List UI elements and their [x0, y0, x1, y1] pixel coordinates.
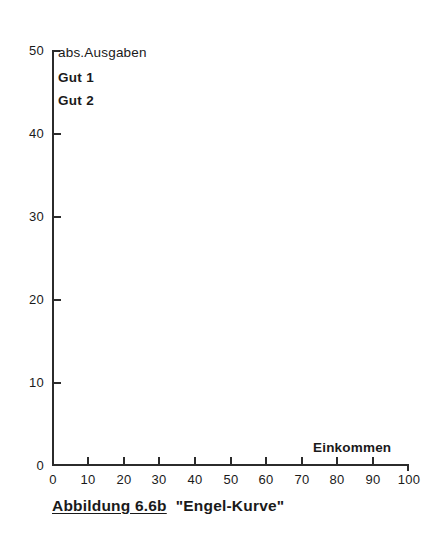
y-tick-label-50: 50 [10, 44, 44, 57]
y-tick-40 [54, 133, 61, 135]
x-tick-30 [158, 457, 160, 464]
figure-caption: Abbildung 6.6b"Engel-Kurve" [52, 496, 284, 516]
x-tick-label-50: 50 [211, 473, 251, 487]
x-tick-60 [265, 457, 267, 464]
x-tick-label-90: 90 [353, 473, 393, 487]
y-axis-title: abs.Ausgaben [58, 45, 147, 61]
x-tick-70 [301, 457, 303, 464]
x-axis-line [52, 464, 409, 466]
y-tick-20 [54, 299, 61, 301]
figure-title: "Engel-Kurve" [176, 497, 285, 514]
x-tick-label-30: 30 [139, 473, 179, 487]
y-tick-label-30: 30 [10, 210, 44, 223]
y-tick-label-20: 20 [10, 293, 44, 306]
x-tick-label-40: 40 [175, 473, 215, 487]
engel-curve-figure: 50 40 30 20 10 0 0 10 20 30 40 50 60 70 … [0, 0, 448, 545]
x-tick-label-70: 70 [282, 473, 322, 487]
x-tick-50 [230, 457, 232, 464]
y-tick-label-10: 10 [10, 376, 44, 389]
y-tick-label-0: 0 [10, 459, 44, 472]
y-tick-10 [54, 382, 61, 384]
x-tick-40 [194, 457, 196, 464]
x-tick-label-60: 60 [246, 473, 286, 487]
x-tick-label-0: 0 [33, 473, 73, 487]
y-axis-line [52, 50, 54, 466]
x-tick-label-100: 100 [389, 473, 429, 487]
x-tick-90 [372, 457, 374, 464]
x-tick-label-80: 80 [317, 473, 357, 487]
x-axis-right-cap [407, 464, 409, 471]
x-tick-20 [123, 457, 125, 464]
x-tick-label-20: 20 [104, 473, 144, 487]
x-axis-title: Einkommen [313, 440, 391, 455]
x-tick-label-10: 10 [68, 473, 108, 487]
y-tick-30 [54, 216, 61, 218]
figure-number: Abbildung 6.6b [52, 497, 167, 514]
series-label-gut-2: Gut 2 [58, 93, 94, 109]
series-label-gut-1: Gut 1 [58, 70, 94, 86]
x-tick-10 [87, 457, 89, 464]
y-tick-label-40: 40 [10, 127, 44, 140]
x-tick-80 [336, 457, 338, 464]
